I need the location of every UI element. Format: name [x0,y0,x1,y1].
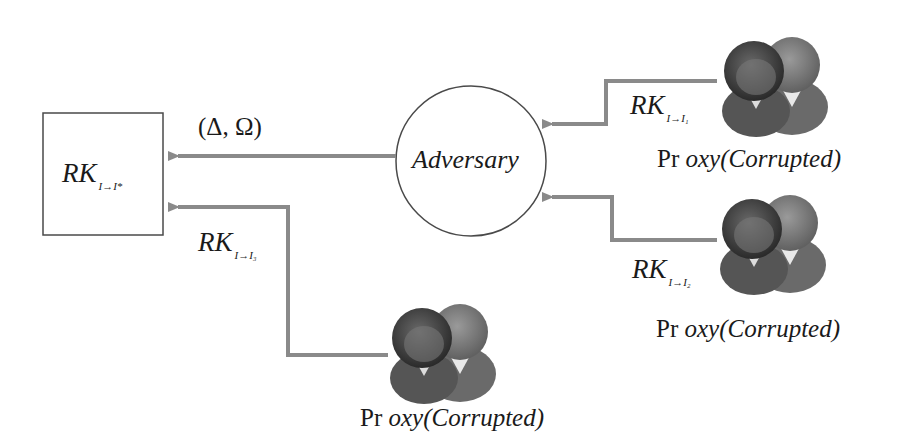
arrow-proxy2-to-adversary [552,197,717,240]
proxy2-key-text: RK [632,254,667,284]
adversary-label: Adversary [412,147,519,173]
proxy1-people-icon [722,37,828,137]
proxy2-name-prefix: Pr [656,315,678,342]
proxy3-people-icon [390,304,496,404]
proxy2-key-label: RKI→I₂ [632,256,691,288]
proxy1-name: Pr oxy(Corrupted) [657,146,841,171]
proxy1-key-subscript: I→I₁ [667,112,689,124]
proxy3-key-label: RKI→I₃ [198,229,257,261]
proxy3-name-rest: oxy [388,404,423,431]
output-label: (Δ, Ω) [198,114,262,139]
proxy3-status: (Corrupted) [423,404,544,431]
proxy3-key-text: RK [198,227,233,257]
proxy2-key-subscript: I→I₂ [669,276,691,288]
proxy2-people-icon [720,195,826,295]
proxy2-name: Pr oxy(Corrupted) [656,316,840,341]
proxy1-key-label: RKI→I₁ [630,92,689,124]
proxy3-name: Pr oxy(Corrupted) [360,405,544,430]
proxy1-key-text: RK [630,90,665,120]
proxy2-status: (Corrupted) [719,315,840,342]
target-key-subscript: I→I* [99,180,123,192]
proxy1-status: (Corrupted) [720,145,841,172]
proxy3-key-subscript: I→I₃ [235,249,257,261]
proxy2-name-rest: oxy [684,315,719,342]
proxy1-name-rest: oxy [685,145,720,172]
diagram-canvas [0,0,915,445]
proxy1-name-prefix: Pr [657,145,679,172]
target-key-text: RK [62,158,97,188]
target-key-label: RKI→I* [62,160,122,192]
proxy3-name-prefix: Pr [360,404,382,431]
